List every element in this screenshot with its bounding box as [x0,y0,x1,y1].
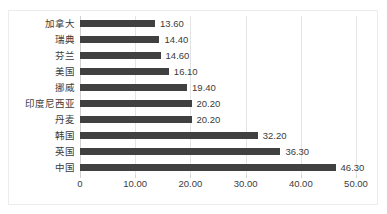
bar-value-label: 20.20 [197,112,221,127]
bar[interactable] [80,84,187,91]
bar[interactable] [80,100,192,107]
bar-row[interactable]: 印度尼西亚20.20 [80,96,387,112]
bar-value-label: 36.30 [285,144,309,159]
bar[interactable] [80,116,192,123]
x-tick-label: 40.00 [289,178,313,189]
chart-container: 加拿大13.60瑞典14.40芬兰14.60美国16.10挪威19.40印度尼西… [8,10,378,205]
bar-row[interactable]: 挪威19.40 [80,80,387,96]
bar-value-label: 16.10 [174,64,198,79]
bar[interactable] [80,132,258,139]
bar[interactable] [80,164,336,171]
category-label: 瑞典 [55,32,75,48]
bar-row[interactable]: 瑞典14.40 [80,32,387,48]
bar-value-label: 13.60 [160,16,184,31]
x-tick-label: 20.00 [179,178,203,189]
bar-row[interactable]: 芬兰14.60 [80,48,387,64]
bar-row[interactable]: 韩国32.20 [80,128,387,144]
category-label: 印度尼西亚 [25,96,75,112]
bar-value-label: 14.40 [164,32,188,47]
bar[interactable] [80,20,155,27]
bar-value-label: 32.20 [263,128,287,143]
category-label: 芬兰 [55,48,75,64]
bar-row[interactable]: 加拿大13.60 [80,16,387,32]
bar[interactable] [80,148,280,155]
x-tick-label: 50.00 [344,178,368,189]
bar-row[interactable]: 美国16.10 [80,64,387,80]
bar-value-label: 20.20 [197,96,221,111]
bar-row[interactable]: 丹麦20.20 [80,112,387,128]
bar-row[interactable]: 英国36.30 [80,144,387,160]
category-label: 挪威 [55,80,75,96]
bar-value-label: 14.60 [166,48,190,63]
bar-value-label: 46.30 [341,160,365,175]
category-label: 美国 [55,64,75,80]
x-tick-label: 0 [77,178,82,189]
bar[interactable] [80,52,161,59]
x-tick-label: 30.00 [234,178,258,189]
category-label: 加拿大 [45,16,75,32]
bar-value-label: 19.40 [192,80,216,95]
plot-area: 加拿大13.60瑞典14.40芬兰14.60美国16.10挪威19.40印度尼西… [80,16,356,176]
x-tick-label: 10.00 [123,178,147,189]
category-label: 中国 [55,160,75,176]
bar[interactable] [80,36,159,43]
bar[interactable] [80,68,169,75]
category-label: 丹麦 [55,112,75,128]
x-axis: 010.0020.0030.0040.0050.00 [80,178,356,198]
category-label: 韩国 [55,128,75,144]
category-label: 英国 [55,144,75,160]
bar-row[interactable]: 中国46.30 [80,160,387,176]
